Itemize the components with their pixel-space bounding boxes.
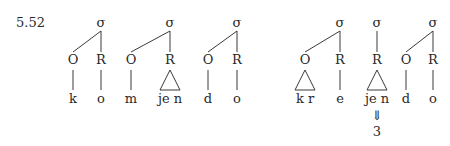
onset-node: O xyxy=(203,52,214,67)
syllable-structure-diagram: 5.52 σOkRoσOmRje nσOdRoσOk rReσRje n⇓3σO… xyxy=(0,0,450,146)
rhyme-node: R xyxy=(232,52,243,67)
branch-line xyxy=(208,31,237,52)
rhyme-node: R xyxy=(96,52,107,67)
branch-line xyxy=(406,31,433,52)
triangle-node xyxy=(160,70,180,90)
segment-label: je n xyxy=(156,91,183,106)
triangle-node xyxy=(367,70,387,90)
triangle-node xyxy=(295,70,315,90)
sigma-node: σ xyxy=(373,15,382,30)
sigma-node: σ xyxy=(233,15,242,30)
segment-label: k xyxy=(69,91,77,106)
sigma-node: σ xyxy=(166,15,175,30)
rhyme-node: R xyxy=(165,52,176,67)
onset-node: O xyxy=(300,52,311,67)
segment-label: o xyxy=(429,91,437,106)
onset-node: O xyxy=(126,52,137,67)
onset-node: O xyxy=(68,52,79,67)
branch-line xyxy=(131,31,170,52)
onset-node: O xyxy=(401,52,412,67)
segment-label: je n xyxy=(363,91,390,106)
sigma-node: σ xyxy=(336,15,345,30)
rhyme-node: R xyxy=(372,52,383,67)
branch-line xyxy=(305,31,340,52)
double-down-arrow-icon: ⇓ xyxy=(372,108,383,123)
derived-segment: 3 xyxy=(373,124,381,139)
segment-label: k r xyxy=(296,91,315,106)
rhyme-node: R xyxy=(335,52,346,67)
segment-label: m xyxy=(125,91,137,106)
segment-label: d xyxy=(402,91,410,106)
branch-line xyxy=(73,31,101,52)
sigma-node: σ xyxy=(97,15,106,30)
example-number: 5.52 xyxy=(16,15,45,30)
sigma-node: σ xyxy=(429,15,438,30)
segment-label: o xyxy=(233,91,241,106)
rhyme-node: R xyxy=(428,52,439,67)
segment-label: d xyxy=(204,91,212,106)
segment-label: o xyxy=(97,91,105,106)
segment-label: e xyxy=(336,91,344,106)
